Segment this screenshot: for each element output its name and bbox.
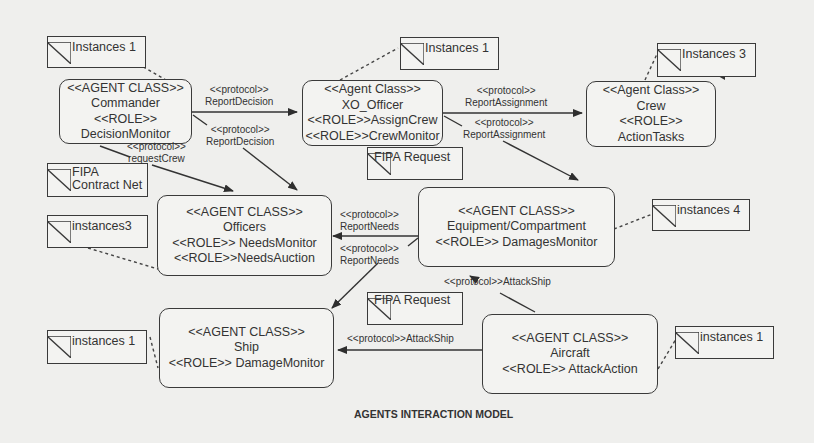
protocol-label-equipment-ship: <<protocol>> ReportNeeds (340, 243, 399, 267)
agent-role: <<ROLE>> NeedsMonitor (158, 236, 331, 252)
agent-role-label: <<ROLE>> (60, 112, 191, 128)
protocol-name: <<protocol>>AttackShip (347, 333, 454, 345)
protocol-name: ReportNeeds (340, 255, 399, 267)
note-fipa-contract-net[interactable]: FIPA Contract Net (47, 163, 148, 197)
protocol-label-commander-officers: <<protocol>> ReportDecision (206, 124, 274, 148)
protocol-name: ReportAssignment (463, 129, 545, 141)
agent-name: Equipment/Compartment (419, 219, 614, 235)
agent-role: <<ROLE>>NeedsAuction (158, 251, 331, 267)
agent-name: Ship (160, 340, 333, 356)
agent-aircraft[interactable]: <<AGENT CLASS>> Aircraft <<ROLE>> Attack… (482, 314, 658, 394)
agent-name: Commander (60, 96, 191, 112)
protocol-label-xo-crew: <<protocol>> ReportAssignment (465, 85, 547, 109)
note-text: instances 4 (677, 200, 749, 218)
protocol-stereotype: <<protocol>> (340, 209, 399, 221)
protocol-name: ReportDecision (206, 136, 274, 148)
note-xo-instances[interactable]: Instances 1 (400, 37, 499, 70)
note-fipa-request-bottom[interactable]: FIPA Request (367, 292, 463, 325)
note-fold-icon (400, 43, 424, 65)
note-fold-icon (47, 221, 71, 243)
agent-role: ActionTasks (587, 130, 715, 146)
protocol-label-aircraft-equipment: <<protocol>>AttackShip (444, 276, 551, 288)
agent-officers[interactable]: <<AGENT CLASS>> Officers <<ROLE>> NeedsM… (157, 195, 332, 276)
note-fold-icon (657, 49, 681, 71)
note-commander-instances[interactable]: Instances 1 (47, 36, 146, 68)
agent-role: <<ROLE>>CrewMonitor (303, 129, 442, 145)
agent-stereotype: <<AGENT CLASS>> (483, 331, 657, 347)
agents-interaction-diagram: <<AGENT CLASS>> Commander <<ROLE>> Decis… (0, 0, 814, 443)
agent-stereotype: <<Agent Class>> (303, 82, 442, 98)
protocol-label-commander-xo: <<protocol>> ReportDecision (205, 84, 273, 108)
protocol-label-xo-equipment: <<protocol>> ReportAssignment (463, 117, 545, 141)
note-text: Instances 1 (425, 38, 498, 56)
note-fold-icon (47, 42, 71, 64)
agent-name: Aircraft (483, 346, 657, 362)
note-fold-icon (652, 205, 676, 227)
protocol-stereotype: <<protocol>> (206, 124, 274, 136)
note-fold-icon (47, 336, 71, 358)
agent-name: XO_Officer (303, 98, 442, 114)
note-text: Instances 1 (72, 37, 145, 55)
note-aircraft-instances[interactable]: instances 1 (675, 326, 774, 359)
agent-name: Crew (587, 99, 715, 115)
agent-role: <<ROLE>>AssignCrew (303, 113, 442, 129)
note-fold-icon (675, 332, 699, 354)
agent-ship[interactable]: <<AGENT CLASS>> Ship <<ROLE>> DamageMoni… (159, 308, 334, 388)
protocol-stereotype: <<protocol>> (463, 117, 545, 129)
note-fold-icon (47, 169, 71, 191)
protocol-label-aircraft-ship: <<protocol>>AttackShip (347, 333, 454, 345)
agent-role: <<ROLE>> AttackAction (483, 362, 657, 378)
agent-xo-officer[interactable]: <<Agent Class>> XO_Officer <<ROLE>>Assig… (302, 80, 443, 146)
protocol-name: ReportNeeds (340, 221, 399, 233)
protocol-name: requestCrew (127, 153, 186, 165)
agent-equipment-compartment[interactable]: <<AGENT CLASS>> Equipment/Compartment <<… (418, 187, 615, 267)
note-text: instances 1 (72, 331, 146, 349)
protocol-stereotype: <<protocol>> (127, 141, 186, 153)
agent-stereotype: <<AGENT CLASS>> (60, 81, 191, 97)
protocol-name: ReportDecision (205, 96, 273, 108)
agent-role: <<ROLE>> DamageMonitor (160, 356, 333, 372)
note-fold-icon (367, 153, 391, 175)
note-text: Instances 3 (682, 44, 755, 62)
note-text: instances 1 (700, 327, 773, 345)
note-ship-instances[interactable]: instances 1 (47, 330, 147, 364)
agent-stereotype: <<AGENT CLASS>> (419, 204, 614, 220)
protocol-stereotype: <<protocol>> (205, 84, 273, 96)
note-text: FIPA Contract Net (72, 164, 148, 192)
diagram-title: AGENTS INTERACTION MODEL (354, 408, 513, 420)
protocol-stereotype: <<protocol>> (465, 85, 547, 97)
note-equipment-instances[interactable]: instances 4 (652, 199, 750, 231)
note-officers-instances[interactable]: instances3 (47, 215, 148, 248)
protocol-name: <<protocol>>AttackShip (444, 276, 551, 288)
agent-role: <<ROLE>> DamagesMonitor (419, 235, 614, 251)
protocol-label-request-crew: <<protocol>> requestCrew (127, 141, 186, 165)
agent-name: Officers (158, 220, 331, 236)
protocol-stereotype: <<protocol>> (340, 243, 399, 255)
agent-role-label: <<ROLE>> (587, 114, 715, 130)
protocol-label-equipment-officers: <<protocol>> ReportNeeds (340, 209, 399, 233)
note-crew-instances[interactable]: Instances 3 (657, 43, 756, 77)
agent-stereotype: <<AGENT CLASS>> (160, 325, 333, 341)
note-text: instances3 (72, 216, 147, 234)
agent-commander[interactable]: <<AGENT CLASS>> Commander <<ROLE>> Decis… (59, 79, 192, 144)
agent-stereotype: <<Agent Class>> (587, 83, 715, 99)
protocol-name: ReportAssignment (465, 97, 547, 109)
note-fipa-request-top[interactable]: FIPA Request (367, 147, 463, 180)
agent-stereotype: <<AGENT CLASS>> (158, 205, 331, 221)
note-fold-icon (367, 298, 391, 320)
agent-crew[interactable]: <<Agent Class>> Crew <<ROLE>> ActionTask… (586, 81, 716, 147)
